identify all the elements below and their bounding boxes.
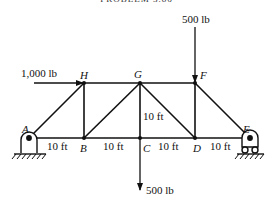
node-label-E: E [243,124,250,135]
load-label-horizontal: 1,000 lb [21,68,57,79]
dimension-height: 10 ft [143,111,163,122]
dimension-CD: 10 ft [158,141,178,152]
dimension-BC: 10 ft [103,141,123,152]
truss-members [29,83,250,138]
dimension-AB: 10 ft [47,141,67,152]
node-label-F: F [200,70,207,81]
load-label-F: 500 lb [182,14,210,25]
load-label-C: 500 lb [146,185,174,196]
dimension-DE: 10 ft [210,141,230,152]
truss-diagram [0,0,273,210]
node-label-D: D [193,143,201,154]
pin-support-icon [12,132,46,159]
node-label-G: G [134,69,142,80]
node-label-B: B [80,143,87,154]
node-label-H: H [80,70,88,81]
node-label-C: C [143,143,150,154]
node-label-A: A [22,124,29,135]
